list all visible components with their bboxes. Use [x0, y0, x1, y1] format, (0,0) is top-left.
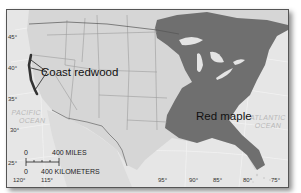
latitude-label-35: 35° — [8, 96, 17, 102]
ocean-label-line: ATLANTIC — [250, 114, 286, 122]
ocean-label-line: OCEAN — [250, 122, 286, 130]
scale-km-label: 400 KILOMETERS — [41, 168, 100, 175]
scale-miles-label: 400 MILES — [52, 149, 87, 156]
scale-miles-zero: 0 — [24, 149, 28, 156]
longitude-label-80: 80° — [243, 177, 252, 183]
longitude-label-85: 85° — [213, 177, 222, 183]
latitude-label-30: 30° — [10, 127, 19, 133]
longitude-label-90: 90° — [189, 177, 198, 183]
longitude-label-115: 115° — [41, 177, 53, 183]
longitude-label-95: 95° — [158, 177, 167, 183]
ocean-label-line: PACIFIC — [7, 109, 45, 117]
ocean-label-atlantic: ATLANTIC OCEAN — [250, 114, 286, 130]
latitude-label-40: 40° — [8, 65, 17, 71]
species-label-red-maple: Red maple — [196, 110, 252, 122]
species-label-coast-redwood: Coast redwood — [41, 66, 118, 78]
map-frame: 45° 40° 35° 30° 25° 120° 115° 95° 90° 85… — [6, 9, 289, 188]
latitude-label-45: 45° — [8, 34, 17, 40]
longitude-label-120: 120° — [13, 177, 25, 183]
ocean-label-pacific: PACIFIC OCEAN — [7, 109, 45, 125]
ocean-label-line: OCEAN — [7, 117, 45, 125]
scale-km-zero: 0 — [24, 168, 28, 175]
us-map-graphic — [7, 10, 288, 187]
longitude-label-75: 75° — [271, 177, 280, 183]
latitude-label-25: 25° — [8, 160, 17, 166]
